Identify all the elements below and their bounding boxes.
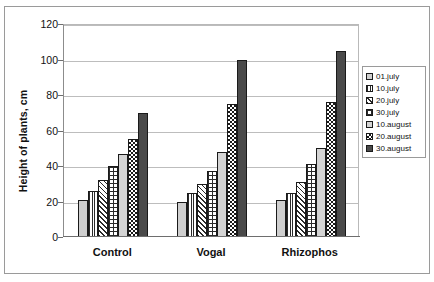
legend-swatch-icon	[366, 73, 373, 80]
y-tick-label: 60	[16, 125, 58, 137]
bar	[78, 200, 88, 237]
bar	[128, 139, 138, 237]
bar	[316, 148, 326, 237]
bar	[336, 51, 346, 237]
y-tick-mark	[58, 60, 63, 61]
bar	[197, 184, 207, 237]
legend-item: 10.august	[366, 118, 423, 130]
bar-group-control	[64, 25, 163, 237]
legend-swatch-icon	[366, 133, 373, 140]
x-axis-line	[63, 236, 360, 237]
bar	[306, 164, 316, 237]
bar	[138, 113, 148, 237]
legend-label: 01.july	[376, 72, 399, 81]
legend-swatch-icon	[366, 145, 373, 152]
bar	[296, 182, 306, 237]
y-tick-label: 120	[16, 18, 58, 30]
x-axis-label-control: Control	[63, 246, 162, 258]
legend-label: 10.july	[376, 84, 399, 93]
legend-item: 10.july	[366, 82, 423, 94]
legend-label: 10.august	[376, 120, 411, 129]
y-tick-mark	[58, 95, 63, 96]
legend-label: 30.july	[376, 108, 399, 117]
legend-item: 20.july	[366, 94, 423, 106]
y-axis-tick-labels: 020406080100120	[10, 0, 58, 282]
bar	[98, 180, 108, 237]
chart-figure: Height of plants, cm 020406080100120 01.…	[0, 0, 434, 282]
y-tick-mark	[58, 166, 63, 167]
bar	[276, 200, 286, 237]
legend-label: 20.july	[376, 96, 399, 105]
legend-item: 01.july	[366, 70, 423, 82]
y-tick-label: 80	[16, 89, 58, 101]
plot-area	[63, 24, 359, 237]
bar	[108, 166, 118, 237]
bar	[286, 193, 296, 237]
y-tick-label: 40	[16, 160, 58, 172]
y-tick-label: 0	[16, 231, 58, 243]
x-axis-label-vogal: Vogal	[162, 246, 261, 258]
y-tick-label: 100	[16, 54, 58, 66]
bar	[177, 202, 187, 238]
bar	[207, 171, 217, 237]
chart-legend: 01.july10.july20.july30.july10.august20.…	[362, 66, 426, 158]
legend-swatch-icon	[366, 121, 373, 128]
bar-group-rhizophos	[261, 25, 360, 237]
legend-item: 30.july	[366, 106, 423, 118]
bar	[237, 60, 247, 238]
legend-swatch-icon	[366, 109, 373, 116]
bar	[88, 191, 98, 237]
bar	[217, 152, 227, 237]
y-tick-label: 20	[16, 196, 58, 208]
y-tick-mark	[58, 237, 63, 238]
y-tick-mark	[58, 24, 63, 25]
legend-swatch-icon	[366, 97, 373, 104]
bar-group-vogal	[163, 25, 262, 237]
y-tick-mark	[58, 131, 63, 132]
y-tick-mark	[58, 202, 63, 203]
bar	[227, 104, 237, 237]
legend-item: 30.august	[366, 142, 423, 154]
bar	[118, 154, 128, 237]
legend-item: 20.august	[366, 130, 423, 142]
x-axis-label-rhizophos: Rhizophos	[260, 246, 359, 258]
legend-swatch-icon	[366, 85, 373, 92]
bar	[187, 193, 197, 237]
legend-label: 30.august	[376, 144, 411, 153]
bar	[326, 102, 336, 237]
legend-label: 20.august	[376, 132, 411, 141]
